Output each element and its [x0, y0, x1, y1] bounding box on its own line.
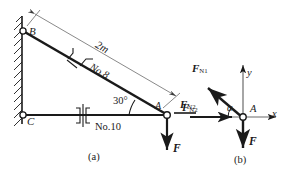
figure-vector	[0, 0, 286, 175]
label-angle-alpha: α	[227, 103, 232, 113]
label-joint-c: C	[27, 116, 34, 127]
label-axis-x: x	[272, 109, 277, 120]
label-force-n1: FN1	[192, 63, 208, 75]
force-n1-arrow	[208, 88, 242, 117]
label-joint-b: B	[29, 26, 36, 37]
label-axis-y: y	[247, 68, 252, 79]
joint-b	[20, 28, 26, 34]
caption-panel-b: (b)	[234, 155, 246, 166]
label-member-no10: No.10	[95, 122, 121, 133]
label-force-n2-b: FN2	[182, 102, 198, 114]
label-force-load-b: F	[249, 136, 257, 148]
joint-origin-b	[240, 114, 246, 120]
joint-a	[164, 112, 171, 119]
figure-canvas: B C A 2m No.8 No.10 30° F FN2 (a) FN1 FN…	[0, 0, 286, 175]
joint-c	[20, 112, 26, 118]
dimension-line-2m	[27, 10, 180, 108]
label-origin-a: A	[250, 104, 256, 115]
label-angle-30: 30°	[113, 96, 128, 107]
force-n2-b-sub: N2	[189, 106, 197, 113]
force-n1-sub: N1	[199, 67, 207, 74]
caption-panel-a: (a)	[88, 152, 100, 163]
label-load-f-a: F	[173, 143, 181, 155]
label-joint-a: A	[155, 101, 161, 111]
angle-arc-30	[129, 100, 135, 115]
